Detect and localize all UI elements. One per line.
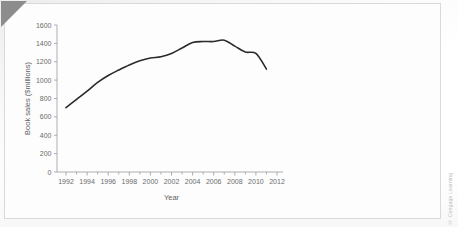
y-axis-tick-marks bbox=[54, 25, 57, 172]
y-tick-label: 1200 bbox=[36, 58, 52, 65]
book-sales-line-series bbox=[66, 40, 266, 108]
y-axis-title: Book sales ($millions) bbox=[23, 62, 32, 135]
x-axis-tick-labels: 1992199419961998200020022004200620082010… bbox=[58, 178, 285, 185]
x-axis-title: Year bbox=[164, 193, 180, 202]
y-tick-label: 1600 bbox=[36, 22, 52, 29]
x-tick-label: 2008 bbox=[227, 178, 243, 185]
x-tick-label: 2002 bbox=[164, 178, 180, 185]
y-tick-label: 400 bbox=[40, 132, 52, 139]
y-tick-label: 1400 bbox=[36, 40, 52, 47]
y-tick-label: 800 bbox=[40, 95, 52, 102]
figure-page: © Cengage Learning 020040060080010001200… bbox=[0, 0, 458, 227]
x-tick-label: 1992 bbox=[58, 178, 74, 185]
x-tick-label: 2010 bbox=[248, 178, 264, 185]
x-tick-label: 2012 bbox=[269, 178, 285, 185]
x-tick-label: 2000 bbox=[143, 178, 159, 185]
x-tick-label: 1994 bbox=[79, 178, 95, 185]
x-tick-label: 1998 bbox=[122, 178, 138, 185]
x-tick-label: 1996 bbox=[100, 178, 116, 185]
y-axis-tick-labels: 02004006008001000120014001600 bbox=[36, 22, 52, 176]
y-tick-label: 600 bbox=[40, 113, 52, 120]
y-tick-label: 0 bbox=[48, 169, 52, 176]
x-tick-label: 2006 bbox=[206, 178, 222, 185]
line-chart: 02004006008001000120014001600 1992199419… bbox=[0, 0, 458, 227]
y-tick-label: 1000 bbox=[36, 77, 52, 84]
x-axis-tick-marks bbox=[66, 172, 277, 176]
y-tick-label: 200 bbox=[40, 150, 52, 157]
chart-svg: 02004006008001000120014001600 1992199419… bbox=[0, 0, 458, 227]
x-tick-label: 2004 bbox=[185, 178, 201, 185]
